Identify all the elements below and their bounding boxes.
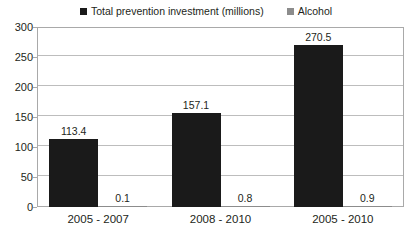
- plot-area: [37, 27, 404, 207]
- y-tick-label: 300: [0, 22, 33, 33]
- gridline: [38, 115, 403, 116]
- gridline: [38, 145, 403, 146]
- legend-label-alcohol: Alcohol: [298, 5, 332, 17]
- y-tick-label: 150: [0, 112, 33, 123]
- x-tick-label: 2005 - 2007: [67, 213, 128, 226]
- y-tick-label: 50: [0, 172, 33, 183]
- chart-legend: Total prevention investment (millions) A…: [0, 0, 412, 22]
- y-tick-label: 0: [0, 202, 33, 213]
- x-tick-label: 2008 - 2010: [190, 213, 251, 226]
- y-tick-label: 100: [0, 142, 33, 153]
- gridline: [38, 55, 403, 56]
- y-axis: 050100150200250300: [0, 27, 33, 208]
- gridline: [38, 175, 403, 176]
- legend-swatch-grey-icon: [287, 8, 294, 15]
- legend-entry-total-prevention-investment: Total prevention investment (millions): [80, 5, 264, 17]
- y-tick-mark: [33, 207, 37, 208]
- legend-swatch-black-icon: [80, 8, 87, 15]
- gridline: [38, 85, 403, 86]
- bar-chart: Total prevention investment (millions) A…: [0, 0, 412, 232]
- y-tick-label: 250: [0, 52, 33, 63]
- x-axis: 2005 - 20072008 - 20102005 - 2010: [37, 210, 404, 232]
- y-tick-label: 200: [0, 82, 33, 93]
- legend-entry-alcohol: Alcohol: [287, 5, 332, 17]
- x-tick-label: 2005 - 2010: [312, 213, 373, 226]
- legend-label-total-prevention-investment: Total prevention investment (millions): [91, 5, 264, 17]
